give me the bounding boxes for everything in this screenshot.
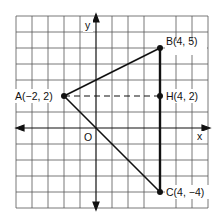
point-a [61,93,67,99]
point-b [157,45,163,51]
x-axis-label: x [197,130,203,142]
label-point-a: A(−2, 2) [15,90,53,102]
x-axis-left-arrow-icon [16,125,24,131]
point-c [157,189,163,195]
y-axis-up-arrow-icon [93,14,99,22]
y-axis-down-arrow-icon [93,202,99,210]
origin-label: O [84,131,92,143]
label-point-b: B(4, 5) [166,35,198,47]
x-axis-right-arrow-icon [202,125,210,131]
y-axis-label: y [85,19,91,31]
coordinate-plane: A(−2, 2) B(4, 5) H(4, 2) C(4, −4) y x O [0,0,218,222]
point-h [157,93,163,99]
label-point-c: C(4, −4) [166,186,204,198]
label-point-h: H(4, 2) [166,90,198,102]
